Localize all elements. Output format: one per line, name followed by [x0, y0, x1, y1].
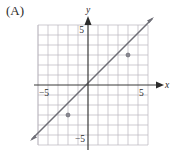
y-axis-arrowhead: [85, 16, 92, 25]
figure-panel: (A): [0, 0, 175, 154]
coordinate-graph: 5 −5 −5 5 x y: [0, 0, 175, 154]
plotted-line: [30, 17, 154, 141]
x-tick-label-neg5: −5: [39, 88, 49, 98]
y-tick-label-neg5: −5: [75, 134, 85, 144]
data-point-marker: [66, 113, 70, 117]
x-axis-label: x: [164, 80, 170, 90]
y-axis-label: y: [85, 5, 91, 15]
data-point-marker: [126, 53, 130, 57]
x-tick-label-5: 5: [139, 88, 144, 98]
axes: [34, 21, 159, 150]
y-tick-label-5: 5: [79, 25, 84, 35]
panel-label: (A): [6, 4, 24, 18]
x-axis-arrowhead: [156, 82, 164, 89]
